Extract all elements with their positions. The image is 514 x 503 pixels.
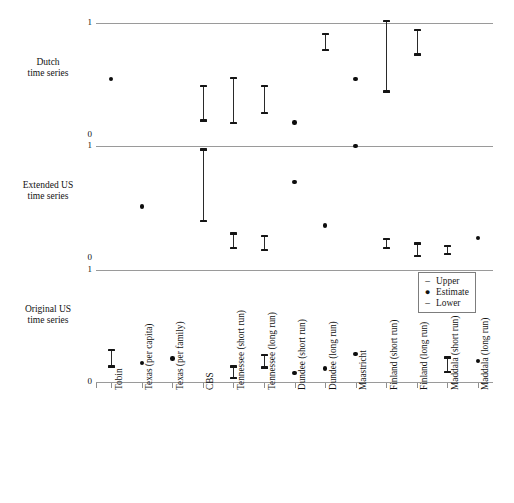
- error-bar-upper-cap: [108, 349, 115, 351]
- y-tick-label-bottom: 0: [78, 130, 92, 139]
- legend-marker-icon: –: [423, 276, 432, 287]
- x-axis-label: Finland (long run): [420, 322, 429, 390]
- x-axis-tick: [264, 383, 265, 388]
- x-axis-tick: [325, 383, 326, 388]
- panel-label-2: Extended UStime series: [8, 180, 88, 202]
- x-axis-label: Texas (per family): [176, 321, 185, 390]
- error-bar-upper-cap: [383, 238, 390, 240]
- estimate-point: [323, 366, 327, 370]
- panel-label-line: time series: [8, 315, 88, 326]
- panel-label-line: Extended US: [8, 180, 88, 191]
- estimate-point: [170, 356, 174, 360]
- error-bar-lower-cap: [200, 119, 207, 121]
- error-bar-upper-cap: [414, 242, 421, 244]
- error-bar: [417, 30, 418, 55]
- error-bar-lower-cap: [261, 249, 268, 251]
- error-bar-upper-cap: [200, 85, 207, 87]
- error-bar: [447, 357, 448, 372]
- error-bar-upper-cap: [261, 85, 268, 87]
- error-bar-lower-cap: [414, 255, 421, 257]
- x-axis-tick: [96, 383, 97, 388]
- error-bar-lower-cap: [200, 220, 207, 222]
- error-bar-lower-cap: [383, 247, 390, 249]
- panel-top-axis-line: [96, 23, 493, 24]
- legend-label: Estimate: [436, 287, 469, 298]
- x-axis-label: Dundee (short run): [298, 319, 307, 390]
- y-tick-label-top: 1: [78, 265, 92, 274]
- error-bar-upper-cap: [230, 232, 237, 234]
- x-axis-label: Maddala (long run): [481, 318, 490, 390]
- error-bar: [264, 236, 265, 251]
- x-axis-tick: [295, 383, 296, 388]
- error-bar: [233, 366, 234, 377]
- error-bar-upper-cap: [200, 148, 207, 150]
- error-bar-upper-cap: [414, 29, 421, 31]
- x-axis-tick: [447, 383, 448, 388]
- estimate-point: [353, 77, 357, 81]
- x-axis-label: Maastricht: [359, 350, 368, 390]
- x-axis-tick: [386, 383, 387, 388]
- panel-label-1: Dutchtime series: [8, 57, 88, 79]
- x-axis-label: Tobin: [115, 368, 124, 390]
- legend-label: Lower: [436, 298, 460, 309]
- x-axis-tick: [356, 383, 357, 388]
- x-axis-label: Dundee (long run): [329, 321, 338, 390]
- error-bar-lower-cap: [444, 253, 451, 255]
- estimate-point: [292, 120, 296, 124]
- panel-label-3: Original UStime series: [8, 304, 88, 326]
- x-axis-label: Maddala (short run): [451, 316, 460, 390]
- error-bar: [325, 34, 326, 50]
- chart-legend: –Upper●Estimate–Lower: [418, 272, 476, 313]
- x-axis-label: Finland (short run): [390, 320, 399, 390]
- error-bar-lower-cap: [383, 90, 390, 92]
- x-axis-label: CBS: [206, 372, 215, 390]
- panel-top-axis-line: [96, 146, 493, 147]
- panel-top-axis-line: [96, 270, 493, 271]
- figure-canvas: 10Dutchtime series10Extended UStime seri…: [0, 0, 514, 503]
- x-axis-label: Tennessee (short run): [237, 310, 246, 390]
- estimate-point: [140, 204, 144, 208]
- x-axis-label: Tennessee (long run): [268, 312, 277, 390]
- error-bar: [233, 233, 234, 248]
- error-bar-lower-cap: [322, 49, 329, 51]
- estimate-point: [292, 180, 296, 184]
- x-axis-label: Texas (per capita): [145, 324, 154, 390]
- x-axis-tick: [203, 383, 204, 388]
- estimate-point: [323, 223, 327, 227]
- estimate-point: [109, 77, 113, 81]
- error-bar-lower-cap: [414, 53, 421, 55]
- legend-label: Upper: [436, 276, 459, 287]
- error-bar: [203, 86, 204, 121]
- error-bar: [111, 350, 112, 367]
- error-bar-lower-cap: [261, 112, 268, 114]
- error-bar: [417, 243, 418, 255]
- error-bar: [203, 149, 204, 221]
- legend-marker-icon: –: [423, 298, 432, 309]
- x-axis-tick: [478, 383, 479, 388]
- legend-item: –Upper: [423, 276, 469, 287]
- error-bar-lower-cap: [230, 122, 237, 124]
- estimate-point: [353, 144, 357, 148]
- error-bar-upper-cap: [444, 245, 451, 247]
- error-bar-lower-cap: [230, 247, 237, 249]
- error-bar-upper-cap: [230, 77, 237, 79]
- panel-label-line: Dutch: [8, 57, 88, 68]
- panel-label-line: time series: [8, 68, 88, 79]
- legend-marker-icon: ●: [423, 287, 432, 298]
- legend-item: ●Estimate: [423, 287, 469, 298]
- error-bar: [386, 21, 387, 92]
- panel-label-line: Original US: [8, 304, 88, 315]
- x-axis-tick: [417, 383, 418, 388]
- x-axis-tick: [111, 383, 112, 388]
- x-axis-tick: [172, 383, 173, 388]
- x-axis-tick: [142, 383, 143, 388]
- error-bar: [233, 78, 234, 123]
- x-axis-tick: [233, 383, 234, 388]
- y-tick-label-bottom: 0: [78, 253, 92, 262]
- y-tick-label-bottom: 0: [78, 377, 92, 386]
- error-bar-upper-cap: [261, 235, 268, 237]
- error-bar: [264, 86, 265, 113]
- estimate-point: [476, 236, 480, 240]
- error-bar-upper-cap: [383, 20, 390, 22]
- legend-item: –Lower: [423, 298, 469, 309]
